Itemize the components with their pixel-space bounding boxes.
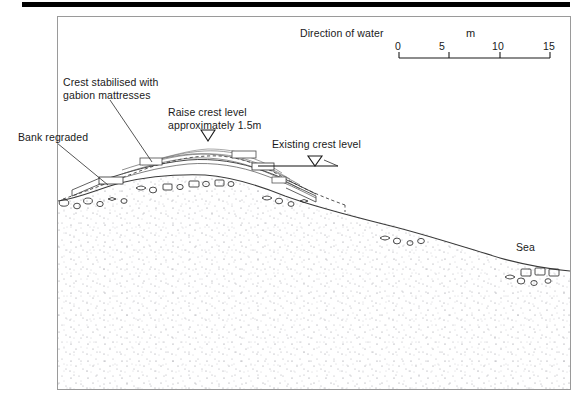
leader-existing-crest <box>324 160 338 166</box>
raise-crest-level-label: Raise crest level approximately 1.5m <box>168 106 261 131</box>
direction-of-water-label: Direction of water <box>300 27 384 40</box>
leader-bank-regraded <box>57 143 108 185</box>
scale-tick-label-15: 15 <box>543 40 555 53</box>
gabion-end-block-upper-left <box>140 158 162 165</box>
gabion-end-block-upper-right <box>232 151 256 158</box>
bank-regraded-label: Bank regraded <box>18 131 88 144</box>
leader-crest-stabilised <box>110 100 152 162</box>
scale-tick-label-5: 5 <box>439 40 445 53</box>
existing-crest-level-triangle-icon <box>308 156 322 166</box>
scale-tick-label-10: 10 <box>492 40 504 53</box>
existing-crest-level-label: Existing crest level <box>272 138 361 151</box>
gabion-toe-block-right <box>272 177 286 183</box>
scale-unit-label: m <box>466 27 475 40</box>
bank-body-fill-overlay <box>58 176 570 389</box>
crest-stabilised-label: Crest stabilised with gabion mattresses <box>63 76 158 101</box>
scale-tick-label-0: 0 <box>395 40 401 53</box>
cross-section-drawing <box>0 0 581 406</box>
scale-bar <box>399 52 550 58</box>
raise-crest-level-triangle-icon <box>201 130 215 141</box>
sea-label: Sea <box>516 241 535 254</box>
figure-page: Direction of water m 0 5 10 15 Crest sta… <box>0 0 581 406</box>
